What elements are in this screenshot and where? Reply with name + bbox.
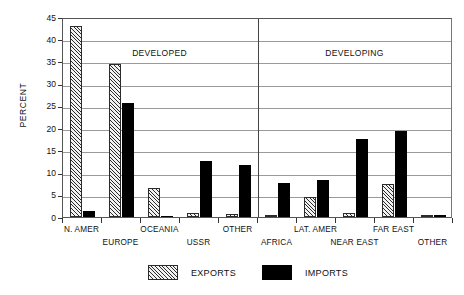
x-tick-mark: [140, 218, 141, 223]
bar-imports-n-amer: [83, 211, 96, 217]
y-tick-label: 40: [16, 35, 56, 45]
x-axis-label-lat-amer: LAT. AMER: [281, 225, 351, 234]
bar-exports-n-amer: [70, 26, 83, 217]
bar-exports-europe: [109, 64, 122, 217]
legend-swatch-exports: [148, 265, 178, 280]
x-axis-label-other: OTHER: [203, 225, 273, 234]
group-divider: [258, 19, 259, 217]
y-tick-label: 35: [16, 57, 56, 67]
bar-exports-other: [226, 214, 239, 217]
y-tick-label: 0: [16, 213, 56, 223]
x-tick-mark: [413, 218, 414, 223]
legend-item-imports: IMPORTS: [262, 265, 348, 280]
x-tick-mark: [452, 218, 453, 223]
bar-exports-ussr: [187, 213, 200, 217]
legend-label-exports: EXPORTS: [191, 268, 236, 278]
bar-imports-near-east: [356, 139, 369, 217]
annotation-developing: DEVELOPING: [310, 48, 400, 58]
gridline: [63, 41, 451, 42]
x-tick-mark: [179, 218, 180, 223]
x-axis-label-africa: AFRICA: [242, 238, 312, 247]
bar-exports-near-east: [343, 213, 356, 217]
x-axis-label-europe: EUROPE: [86, 238, 156, 247]
bar-imports-oceania: [161, 216, 174, 217]
x-tick-mark: [296, 218, 297, 223]
legend-item-exports: EXPORTS: [148, 265, 236, 280]
x-axis-label-ussr: USSR: [164, 238, 234, 247]
x-tick-mark: [101, 218, 102, 223]
bar-imports-far-east: [395, 131, 408, 217]
bar-imports-other: [239, 165, 252, 217]
x-tick-mark: [218, 218, 219, 223]
x-axis-label-far-east: FAR EAST: [359, 225, 429, 234]
gridline: [63, 63, 451, 64]
x-tick-mark: [335, 218, 336, 223]
annotation-developed: DEVELOPED: [115, 48, 205, 58]
y-tick-label: 10: [16, 168, 56, 178]
legend-swatch-imports: [262, 265, 292, 280]
bar-imports-lat-amer: [317, 180, 330, 217]
bar-exports-africa: [265, 215, 278, 217]
x-tick-mark: [374, 218, 375, 223]
x-axis-label-oceania: OCEANIA: [125, 225, 195, 234]
legend-label-imports: IMPORTS: [305, 268, 348, 278]
y-tick-label: 30: [16, 79, 56, 89]
x-axis-label-other: OTHER: [398, 238, 464, 247]
x-tick-mark: [257, 218, 258, 223]
bar-exports-oceania: [148, 188, 161, 217]
x-axis-label-near-east: NEAR EAST: [320, 238, 390, 247]
y-tick-label: 45: [16, 13, 56, 23]
bar-imports-other: [434, 215, 447, 217]
bar-exports-far-east: [382, 184, 395, 217]
gridline: [63, 86, 451, 87]
x-tick-mark: [62, 218, 63, 223]
y-tick-label: 25: [16, 101, 56, 111]
bar-imports-ussr: [200, 161, 213, 217]
bar-exports-lat-amer: [304, 197, 317, 217]
y-tick-label: 15: [16, 146, 56, 156]
bar-imports-africa: [278, 183, 291, 217]
y-tick-label: 20: [16, 124, 56, 134]
bar-imports-europe: [122, 103, 135, 217]
bar-chart: PERCENT 051015202530354045 N. AMEREUROPE…: [0, 0, 464, 295]
chart-legend: EXPORTS IMPORTS: [0, 262, 464, 288]
y-tick-label: 5: [16, 190, 56, 200]
bar-exports-other: [421, 215, 434, 217]
x-axis-label-n-amer: N. AMER: [47, 225, 117, 234]
